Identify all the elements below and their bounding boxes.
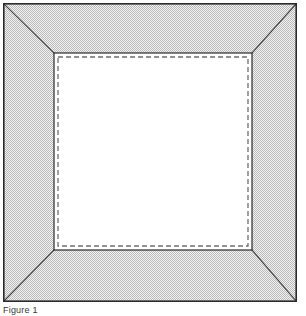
figure-container: Figure 1 xyxy=(0,0,306,316)
frame-opening xyxy=(54,53,252,250)
figure-caption: Figure 1 xyxy=(3,305,38,316)
figure-drawing xyxy=(0,0,306,316)
